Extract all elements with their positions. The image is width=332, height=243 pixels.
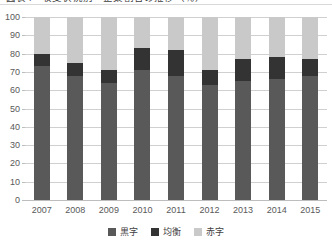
bar-segment[interactable] <box>168 17 184 50</box>
bar-group[interactable] <box>302 17 318 200</box>
bar-segment[interactable] <box>134 70 150 200</box>
bar-segment[interactable] <box>134 48 150 70</box>
x-axis: 200720082009201020112012201320142015 <box>25 203 327 217</box>
x-tick-label: 2015 <box>293 203 327 217</box>
y-tick-label: 90 <box>10 31 20 40</box>
y-tick-label: 50 <box>10 104 20 113</box>
chart-container: 図表4 収支状況別 企業割合の推移（％） 1009080706050403020… <box>0 0 332 243</box>
bar-group[interactable] <box>67 17 83 200</box>
bar-segment[interactable] <box>302 76 318 200</box>
y-tick-label: 40 <box>10 122 20 131</box>
x-tick-label: 2012 <box>193 203 227 217</box>
bar-group[interactable] <box>101 17 117 200</box>
legend-label: 黒字 <box>120 228 138 237</box>
bar-segment[interactable] <box>202 70 218 85</box>
x-tick-label: 2011 <box>159 203 193 217</box>
y-tick-label: 70 <box>10 67 20 76</box>
bar-segment[interactable] <box>235 81 251 200</box>
y-tick-label: 100 <box>5 13 20 22</box>
y-tick-label: 30 <box>10 141 20 150</box>
legend-item[interactable]: 赤字 <box>194 228 224 237</box>
bar-group[interactable] <box>235 17 251 200</box>
bar-group[interactable] <box>202 17 218 200</box>
x-tick-label: 2008 <box>59 203 93 217</box>
bar-segment[interactable] <box>34 17 50 54</box>
bar-group[interactable] <box>134 17 150 200</box>
legend-swatch <box>151 228 159 236</box>
legend-item[interactable]: 黒字 <box>108 228 138 237</box>
plot-wrapper: 1009080706050403020100 20072008200920102… <box>0 0 332 243</box>
bar-segment[interactable] <box>134 17 150 48</box>
bar-segment[interactable] <box>101 83 117 200</box>
plot-area <box>25 17 327 200</box>
chart-legend: 黒字均衡赤字 <box>0 224 332 240</box>
bar-segment[interactable] <box>302 59 318 75</box>
bar-segment[interactable] <box>67 76 83 200</box>
bar-segment[interactable] <box>67 17 83 63</box>
gridline <box>25 200 327 201</box>
y-tick-label: 60 <box>10 86 20 95</box>
x-tick-label: 2007 <box>25 203 59 217</box>
legend-swatch <box>194 228 202 236</box>
bar-segment[interactable] <box>67 63 83 76</box>
x-tick-label: 2010 <box>126 203 160 217</box>
x-tick-label: 2014 <box>260 203 294 217</box>
legend-label: 均衡 <box>163 228 181 237</box>
y-tickmark <box>22 200 25 201</box>
bar-segment[interactable] <box>101 17 117 70</box>
bar-segment[interactable] <box>34 66 50 200</box>
bar-segment[interactable] <box>34 54 50 67</box>
bar-group[interactable] <box>269 17 285 200</box>
y-tick-label: 10 <box>10 177 20 186</box>
bar-segment[interactable] <box>101 70 117 83</box>
legend-label: 赤字 <box>206 228 224 237</box>
bar-segment[interactable] <box>302 17 318 59</box>
bars-layer <box>25 17 327 200</box>
bar-segment[interactable] <box>202 85 218 200</box>
y-tick-label: 0 <box>15 196 20 205</box>
bar-segment[interactable] <box>269 79 285 200</box>
bar-segment[interactable] <box>202 17 218 70</box>
x-tick-label: 2009 <box>92 203 126 217</box>
legend-item[interactable]: 均衡 <box>151 228 181 237</box>
y-tick-label: 20 <box>10 159 20 168</box>
x-tick-label: 2013 <box>226 203 260 217</box>
bar-segment[interactable] <box>235 59 251 81</box>
bar-group[interactable] <box>34 17 50 200</box>
bar-segment[interactable] <box>168 76 184 200</box>
bar-segment[interactable] <box>235 17 251 59</box>
bar-segment[interactable] <box>269 57 285 79</box>
y-axis: 1009080706050403020100 <box>0 17 22 200</box>
bar-group[interactable] <box>168 17 184 200</box>
y-tick-label: 80 <box>10 49 20 58</box>
legend-swatch <box>108 228 116 236</box>
bar-segment[interactable] <box>168 50 184 76</box>
bar-segment[interactable] <box>269 17 285 57</box>
